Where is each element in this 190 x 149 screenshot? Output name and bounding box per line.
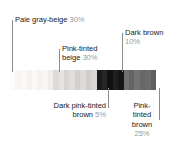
label-dark-brown: Dark brown 10% <box>125 28 163 47</box>
label-pink-tinted-beige-line2: beige <box>62 53 80 62</box>
label-pink-tinted-brown-percent: 25% <box>127 129 157 138</box>
label-dark-pink-tinted-brown-percent: 5% <box>95 110 106 119</box>
leader-line-pale-gray-beige <box>12 20 13 72</box>
label-dark-brown-percent: 10% <box>125 37 163 46</box>
label-dark-pink-tinted-brown-line2: brown <box>73 110 93 119</box>
label-pale-gray-beige-name: Pale gray-beige <box>15 15 67 24</box>
leader-line-pink-tinted-brown <box>159 88 160 120</box>
label-dark-brown-name: Dark brown <box>125 28 163 37</box>
color-swatch-bar <box>10 70 156 90</box>
label-pink-tinted-beige-percent: 30% <box>82 53 97 62</box>
label-pink-tinted-beige: Pink-tinted beige 30% <box>62 44 97 63</box>
label-dark-pink-tinted-brown: Dark pink-tinted brown 5% <box>24 101 106 120</box>
label-pink-tinted-brown-line2: tinted <box>127 110 157 119</box>
leader-line-pink-tinted-beige <box>59 49 60 72</box>
label-pink-tinted-brown-line3: brown <box>127 120 157 129</box>
label-dark-pink-tinted-brown-line1: Dark pink-tinted <box>24 101 106 110</box>
leader-line-dark-pink-tinted-brown <box>108 88 109 108</box>
leader-line-dark-brown <box>122 33 123 72</box>
label-pink-tinted-brown: Pink- tinted brown 25% <box>127 101 157 139</box>
color-swatch-26 <box>151 70 156 90</box>
label-pale-gray-beige: Pale gray-beige 30% <box>15 15 85 24</box>
label-pink-tinted-beige-line1: Pink-tinted <box>62 44 97 53</box>
label-pale-gray-beige-percent: 30% <box>70 15 85 24</box>
color-distribution-infographic: Pale gray-beige 30% Pink-tinted beige 30… <box>0 0 190 149</box>
label-pink-tinted-brown-line1: Pink- <box>127 101 157 110</box>
